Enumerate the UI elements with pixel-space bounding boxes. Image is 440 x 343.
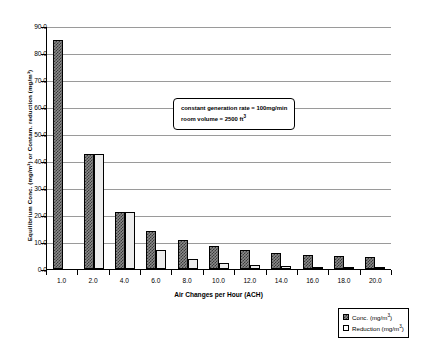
x-axis-tick xyxy=(77,270,78,275)
x-axis-tick xyxy=(297,270,298,275)
x-axis-tick xyxy=(266,270,267,275)
bar-conc-12.0 xyxy=(240,250,250,269)
bar-conc-18.0 xyxy=(334,256,344,269)
legend-label-reduction: Reduction (mg/m3) xyxy=(352,323,404,334)
bar-conc-14.0 xyxy=(271,253,281,269)
bar-reduction-2.0 xyxy=(94,154,104,269)
bar-reduction-6.0 xyxy=(156,250,166,269)
bar-group xyxy=(297,27,328,269)
reduction-swatch-icon xyxy=(343,325,349,331)
bar-group xyxy=(266,27,297,269)
bar-reduction-18.0 xyxy=(344,267,354,269)
x-axis-tick xyxy=(328,270,329,275)
bar-conc-6.0 xyxy=(146,231,156,269)
bar-conc-4.0 xyxy=(115,212,125,269)
x-axis-tick xyxy=(234,270,235,275)
bar-group xyxy=(78,27,109,269)
bar-group xyxy=(110,27,141,269)
bar-conc-1.0 xyxy=(53,40,63,270)
annotation-line-2: room volume = 2500 ft3 xyxy=(181,113,287,124)
legend-item-reduction: Reduction (mg/m3) xyxy=(343,323,404,334)
annotation-line-1: constant generation rate = 100mg/min xyxy=(181,103,287,113)
bar-reduction-12.0 xyxy=(250,265,260,269)
chart-legend: Conc. (mg/m3) Reduction (mg/m3) xyxy=(338,308,409,338)
x-axis-tick xyxy=(46,270,47,275)
bar-reduction-16.0 xyxy=(313,267,323,269)
bar-group xyxy=(172,27,203,269)
legend-item-conc: Conc. (mg/m3) xyxy=(343,312,404,323)
conc-swatch-icon xyxy=(343,314,349,320)
bar-reduction-10.0 xyxy=(219,263,229,269)
x-axis-title: Air Changes per Hour (ACH) xyxy=(46,291,391,298)
bar-group xyxy=(360,27,391,269)
x-axis-tick xyxy=(109,270,110,275)
annotation-callout: constant generation rate = 100mg/min roo… xyxy=(173,98,295,130)
legend-label-conc: Conc. (mg/m3) xyxy=(352,312,392,323)
bar-conc-10.0 xyxy=(209,246,219,269)
bar-conc-2.0 xyxy=(84,154,94,269)
x-axis-tick xyxy=(203,270,204,275)
x-axis-tick-label: 20.0 xyxy=(355,277,395,284)
x-axis-tick xyxy=(171,270,172,275)
x-axis-tick xyxy=(140,270,141,275)
bar-reduction-14.0 xyxy=(281,266,291,269)
chart-figure: Equilibrium Conc. (mg/m³) or Contam. red… xyxy=(0,0,440,343)
bar-reduction-4.0 xyxy=(125,212,135,269)
bar-group xyxy=(235,27,266,269)
x-axis-tick xyxy=(391,270,392,275)
bar-group xyxy=(328,27,359,269)
plot-area xyxy=(46,27,391,270)
bar-group xyxy=(141,27,172,269)
bar-group-container xyxy=(47,27,391,269)
bar-conc-20.0 xyxy=(365,257,375,269)
bar-conc-16.0 xyxy=(303,255,313,269)
bar-reduction-8.0 xyxy=(188,259,198,269)
bar-group xyxy=(47,27,78,269)
x-axis-tick xyxy=(360,270,361,275)
bar-reduction-20.0 xyxy=(375,267,385,269)
bar-conc-8.0 xyxy=(178,240,188,269)
bar-group xyxy=(203,27,234,269)
